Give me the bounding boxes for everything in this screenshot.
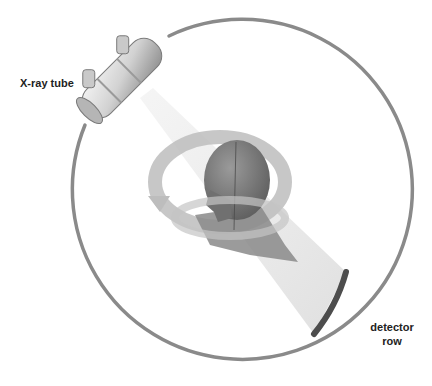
x-ray-tube-label: X-ray tube xyxy=(20,76,74,90)
detector-label-line2: row xyxy=(366,334,418,348)
detector-label-line1: detector xyxy=(366,320,418,334)
ct-diagram: X-ray tube detector row xyxy=(0,0,432,386)
detector-row-label: detector row xyxy=(366,320,418,348)
